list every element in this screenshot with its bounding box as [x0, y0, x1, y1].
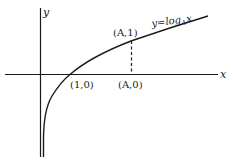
function-label-suffix: x: [185, 12, 192, 24]
y-axis-label: y: [42, 6, 50, 19]
point-label-a1: (A,1): [113, 27, 138, 38]
log-graph-diagram: y x y=logAx (A,1) (1,0) (A,0): [0, 0, 233, 163]
function-label-prefix: y=log: [150, 14, 182, 29]
point-label-10: (1,0): [70, 79, 94, 90]
x-axis-label: x: [220, 68, 227, 81]
point-label-a0: (A,0): [118, 79, 143, 90]
